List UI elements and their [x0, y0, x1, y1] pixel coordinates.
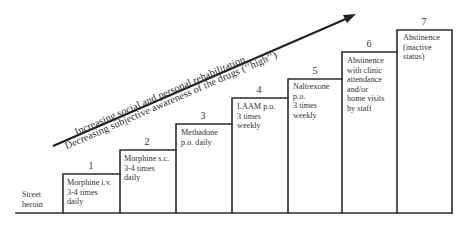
step-3-number: 3	[193, 110, 213, 121]
step-1-number: 1	[81, 160, 101, 171]
step-1-label: Morphine i.v. 3-4 times daily	[67, 178, 111, 207]
step-2-number: 2	[137, 136, 157, 147]
step-4-label: LAAM p.o. 3 times weekly	[237, 102, 275, 131]
step-6-label: Abstinence with clinic attendance and/or…	[347, 56, 385, 114]
step-5-label: Naltrexone p.o. 3 times weekly	[293, 82, 329, 120]
step-3-label: Methadone p.o. daily	[181, 128, 218, 147]
step-7-label: Abstinence (inactive status)	[403, 33, 440, 62]
step-7-number: 7	[414, 16, 434, 27]
start-label: Street heroin	[22, 190, 43, 209]
step-5-number: 5	[305, 65, 325, 76]
step-2-label: Morphine s.c. 3-4 times daily	[124, 154, 169, 183]
step-6-number: 6	[359, 38, 379, 49]
step-4-number: 4	[249, 84, 269, 95]
